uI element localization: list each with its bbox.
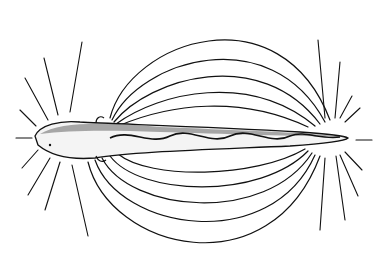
eye-icon [49, 144, 51, 146]
illustration-canvas [0, 0, 388, 276]
field-lines-upper [110, 40, 330, 127]
dorsal-fin [96, 117, 104, 123]
electric-fish-illustration [0, 0, 388, 276]
field-lines-lower [88, 149, 320, 243]
